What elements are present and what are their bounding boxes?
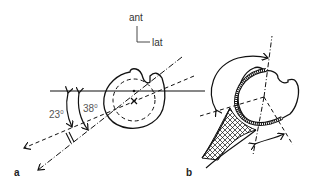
compass-axes xyxy=(137,26,150,42)
orientation-compass: ant lat xyxy=(129,12,163,48)
angle-38-label: 380 xyxy=(83,103,98,114)
lateral-label: lat xyxy=(152,37,163,48)
axis-tick xyxy=(66,132,74,143)
panel-a-label: a xyxy=(14,167,20,178)
diagram-canvas: ant lat 230 380 a xyxy=(0,0,316,187)
center-dot xyxy=(133,90,136,93)
angle-23-label: 230 xyxy=(49,109,64,120)
panel-a: 230 380 a xyxy=(14,57,205,178)
anterior-label: ant xyxy=(129,12,143,23)
arc-arrow-large xyxy=(211,56,268,110)
panel-b: b xyxy=(186,36,299,178)
arc-arrow-small xyxy=(255,134,284,144)
glenoid-hatched xyxy=(202,108,256,160)
radius-bottom xyxy=(253,97,264,155)
radius-top xyxy=(264,36,272,97)
panel-b-label: b xyxy=(186,167,192,178)
angle-arc-23 xyxy=(67,93,72,127)
head-circle-dashed xyxy=(113,79,155,121)
